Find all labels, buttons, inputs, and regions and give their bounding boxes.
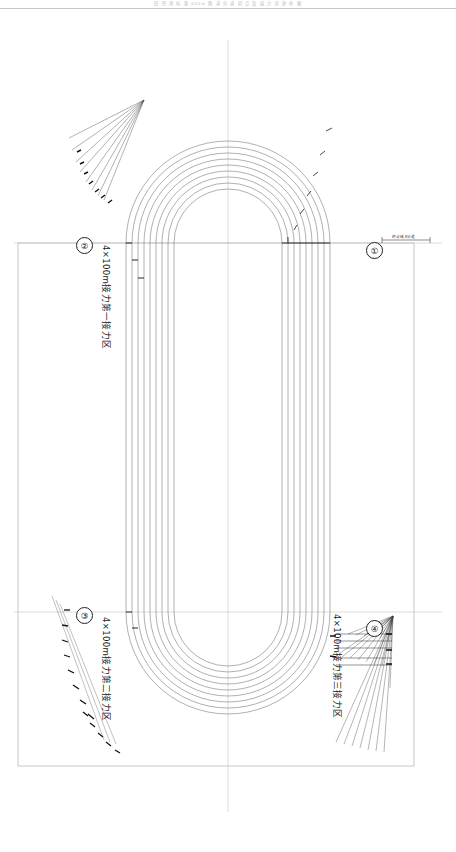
reference-marker-2-symbol: ② — [81, 241, 89, 251]
handover-zone-3-leaders — [336, 616, 393, 752]
zone-label-first-handover: 4×100m接力第一接力区 — [101, 245, 113, 349]
reference-marker-4[interactable]: ④ — [366, 620, 383, 637]
handover-zone-3-dim-bars — [336, 634, 392, 665]
stagger-marks-left-straight — [126, 243, 144, 628]
reference-marker-1-symbol: ① — [371, 246, 379, 256]
handover-zone-1-marks — [77, 150, 112, 203]
reference-marker-3[interactable]: ③ — [76, 607, 93, 624]
reference-marker-4-symbol: ④ — [371, 624, 379, 634]
reference-marker-1[interactable]: ① — [366, 242, 383, 259]
reference-marker-3-symbol: ③ — [81, 611, 89, 621]
handover-zone-2-marks — [62, 610, 94, 719]
zone-label-second-handover: 4×100m接力第二接力区 — [101, 617, 113, 721]
drawing-sheet: 田 径 场 标 准 400m 跑 道 分 道 起 点 及 接 力 区 放 样 图 — [0, 0, 456, 852]
reference-marker-2[interactable]: ② — [76, 237, 93, 254]
finish-line-label: 终点线 8分道 — [392, 234, 415, 239]
track-drawing — [0, 0, 456, 852]
zone-label-third-handover: 4×100m接力第三接力区 — [332, 614, 344, 718]
